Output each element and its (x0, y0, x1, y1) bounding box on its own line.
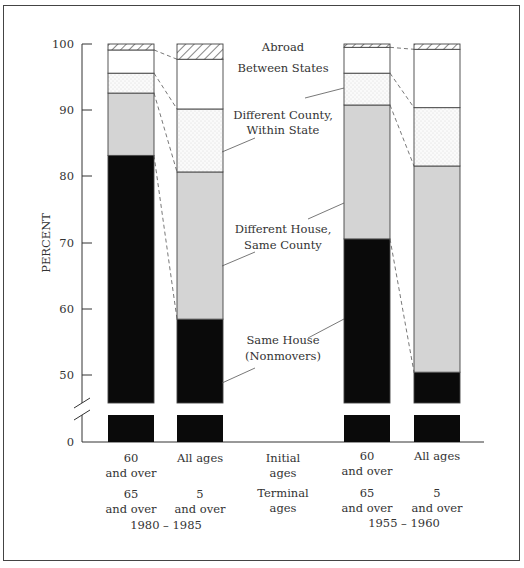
segment-between-states (177, 59, 223, 109)
svg-text:and over: and over (341, 501, 393, 515)
y-tick-60: 60 (59, 302, 74, 316)
bar-base-stub (414, 415, 460, 442)
connector-line (154, 73, 177, 109)
connector-line (390, 105, 414, 166)
period-1955-1960: 1955 – 1960 (368, 516, 440, 530)
label-different-county-1: Different County, (233, 108, 333, 122)
annotations: Abroad Between States Different County, … (222, 40, 344, 383)
segment-different-county-within-state (344, 73, 390, 105)
segment-different-house-same-county (344, 105, 390, 239)
segment-different-county-within-state (108, 73, 154, 93)
connector-line (390, 239, 414, 372)
bar-3 (344, 44, 390, 442)
stacked-bar-chart: 100 90 80 70 60 50 0 PERCENT Abroad Betw… (0, 0, 524, 568)
bar-base-stub (177, 415, 223, 442)
period-1980-1985: 1980 – 1985 (130, 518, 202, 532)
segment-different-house-same-county (177, 172, 223, 319)
y-axis-label: PERCENT (39, 213, 53, 273)
y-tick-0: 0 (67, 435, 74, 449)
segment-different-house-same-county (414, 166, 460, 372)
segment-different-county-within-state (177, 109, 223, 172)
segment-abroad (344, 44, 390, 47)
bar4-terminal-age: 5 (433, 486, 440, 500)
bar-base-stub (344, 415, 390, 442)
connector-line (154, 93, 177, 172)
segment-different-county-within-state (414, 108, 460, 166)
bar3-initial-age: 60 (360, 449, 375, 463)
initial-ages-label: Initial (266, 451, 301, 465)
y-tick-100: 100 (52, 37, 74, 51)
connector-line (154, 155, 177, 319)
segment-abroad (414, 44, 460, 49)
segment-abroad (177, 44, 223, 59)
bar2-terminal-age: 5 (196, 487, 203, 501)
label-different-house-1: Different House, (235, 222, 332, 236)
terminal-ages-label: Terminal (257, 486, 309, 500)
connector-line (154, 50, 177, 59)
bar-1 (108, 44, 154, 442)
label-between-states: Between States (237, 61, 328, 75)
svg-text:and over: and over (411, 501, 463, 515)
bar2-initial-age: All ages (176, 451, 223, 465)
y-tick-90: 90 (59, 103, 74, 117)
label-same-house-2: (Nonmovers) (245, 349, 321, 363)
segment-same-house-nonmovers (414, 372, 460, 403)
segment-same-house-nonmovers (177, 319, 223, 403)
label-different-county-2: Within State (247, 123, 320, 137)
bar1-initial-age: 60 (124, 451, 139, 465)
segment-same-house-nonmovers (108, 155, 154, 403)
segment-abroad (108, 44, 154, 50)
y-tick-50: 50 (59, 368, 74, 382)
svg-text:and over: and over (174, 502, 226, 516)
segment-between-states (108, 50, 154, 73)
segment-same-house-nonmovers (344, 239, 390, 403)
connector-line (390, 73, 414, 107)
svg-text:and over: and over (105, 466, 157, 480)
bar-4 (414, 44, 460, 442)
x-labels: 60 and over All ages Initial ages 60 and… (105, 449, 463, 532)
bar4-initial-age: All ages (413, 449, 460, 463)
segment-between-states (344, 47, 390, 73)
bar-base-stub (108, 415, 154, 442)
connector-line (390, 47, 414, 49)
svg-text:and over: and over (341, 464, 393, 478)
bar3-terminal-age: 65 (360, 486, 375, 500)
svg-text:ages: ages (270, 466, 297, 480)
label-different-house-2: Same County (244, 238, 322, 252)
svg-text:and over: and over (105, 502, 157, 516)
svg-text:ages: ages (270, 501, 297, 515)
bar1-terminal-age: 65 (124, 487, 139, 501)
segment-different-house-same-county (108, 93, 154, 155)
y-tick-70: 70 (59, 236, 74, 250)
segment-between-states (414, 49, 460, 107)
bar-2 (177, 44, 223, 442)
y-tick-80: 80 (59, 169, 74, 183)
label-abroad: Abroad (261, 40, 305, 54)
label-same-house-1: Same House (246, 333, 319, 347)
